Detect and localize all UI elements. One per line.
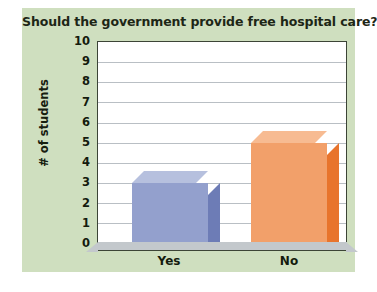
y-tick-label-9: 9 (68, 56, 90, 67)
gridline-9 (98, 62, 346, 63)
bar-no-front-face (251, 143, 327, 243)
y-tick-label-5: 5 (68, 137, 90, 148)
y-tick-label-10: 10 (68, 36, 90, 47)
y-tick-label-2: 2 (68, 198, 90, 209)
plot-floor-slab (97, 242, 347, 251)
bar-no-side-face (327, 143, 339, 243)
y-tick-label-7: 7 (68, 97, 90, 108)
bar-yes-side-face (208, 183, 220, 243)
gridline-7 (98, 102, 346, 103)
bar-yes[interactable] (132, 183, 208, 243)
x-tick-label-no: No (244, 254, 334, 268)
chart-figure: Should the government provide free hospi… (22, 8, 355, 272)
gridline-8 (98, 82, 346, 83)
plot-area (97, 41, 347, 243)
bar-yes-front-face (132, 183, 208, 243)
bar-no[interactable] (251, 143, 327, 243)
x-tick-label-yes: Yes (124, 254, 214, 268)
y-tick-label-0: 0 (68, 238, 90, 249)
y-axis-title: # of students (37, 73, 51, 173)
y-tick-label-3: 3 (68, 177, 90, 188)
y-tick-label-1: 1 (68, 218, 90, 229)
gridline-6 (98, 123, 346, 124)
y-tick-label-6: 6 (68, 117, 90, 128)
chart-title: Should the government provide free hospi… (22, 14, 355, 29)
plot-floor-right-wedge (346, 242, 358, 252)
y-tick-label-4: 4 (68, 157, 90, 168)
y-tick-label-8: 8 (68, 76, 90, 87)
bar-yes-top-face (132, 171, 208, 183)
bar-no-top-face (251, 131, 327, 143)
